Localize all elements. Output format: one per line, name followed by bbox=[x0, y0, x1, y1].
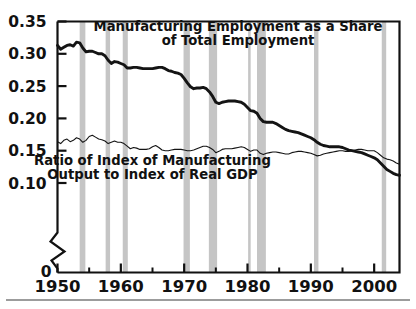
recession-band bbox=[382, 22, 386, 273]
y-axis-tick-label: 0.20 bbox=[8, 110, 46, 128]
ratio-output-gdp-label-line1: Ratio of Index of Manufacturing bbox=[34, 153, 271, 168]
x-axis-tick-label: 1980 bbox=[225, 277, 271, 296]
x-axis-tick-label: 1970 bbox=[161, 277, 207, 296]
ratio-output-gdp-label-line2: Output to Index of Real GDP bbox=[47, 167, 258, 182]
recession-band bbox=[209, 22, 217, 273]
recession-band bbox=[257, 22, 266, 273]
ratio-output-gdp-label: Ratio of Index of ManufacturingOutput to… bbox=[34, 153, 271, 182]
y-axis-tick-label: 0.25 bbox=[8, 78, 46, 96]
x-axis-tick-label: 1950 bbox=[35, 277, 81, 296]
chart-figure: 0.350.300.250.200.150.100 19501960197019… bbox=[0, 0, 416, 309]
x-axis-tick-label: 1960 bbox=[98, 277, 144, 296]
y-axis-tick-label: 0.35 bbox=[8, 13, 46, 31]
recession-band bbox=[248, 22, 251, 273]
recession-band bbox=[123, 22, 128, 273]
recession-band bbox=[314, 22, 318, 273]
y-axis-tick-label: 0.10 bbox=[8, 175, 46, 193]
recession-band bbox=[80, 22, 86, 273]
x-axis-tick-label: 1990 bbox=[288, 277, 334, 296]
x-axis-tick-label: 2000 bbox=[351, 277, 397, 296]
y-axis-tick-label: 0.30 bbox=[8, 45, 46, 63]
recession-band bbox=[184, 22, 190, 273]
manufacturing-employment-label-line2: of Total Employment bbox=[162, 33, 315, 48]
manufacturing-share-line-chart: 0.350.300.250.200.150.100 19501960197019… bbox=[0, 0, 416, 309]
manufacturing-employment-label-line1: Manufacturing Employment as a Share bbox=[94, 19, 383, 34]
